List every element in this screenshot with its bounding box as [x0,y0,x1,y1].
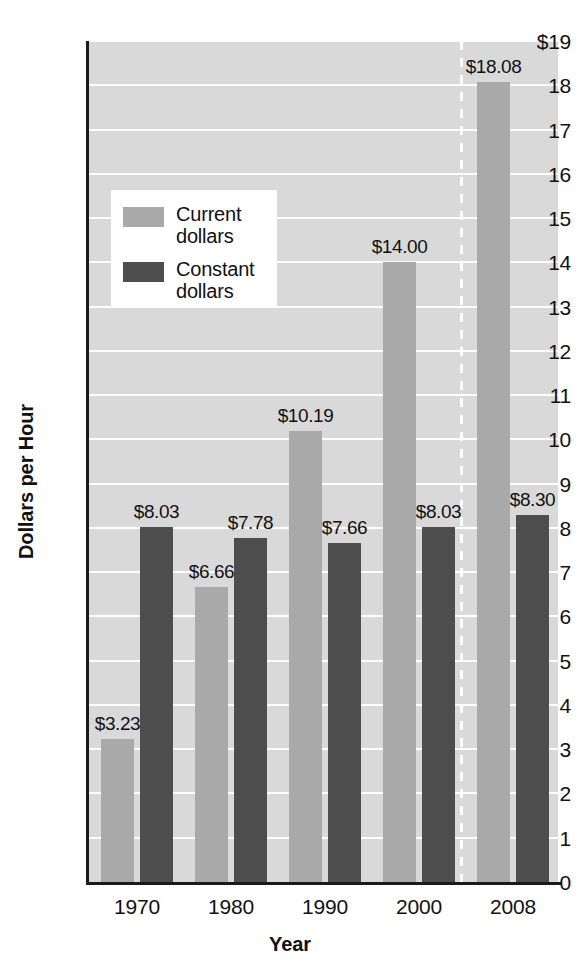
y-tick-13: 13 [494,296,580,317]
y-tick-8: 8 [494,517,580,538]
value-label-2008-current: $18.08 [466,57,522,76]
bar-1970-current [101,739,134,882]
period-divider-line [460,41,463,882]
legend-label-current-line2: dollars [176,225,234,247]
y-tick-18: 18 [494,75,580,96]
legend-item-current: Current dollars [123,203,277,248]
y-tick-10: 10 [494,429,580,450]
y-tick-3: 3 [494,739,580,760]
bar-1980-constant [234,538,267,882]
y-tick-7: 7 [494,562,580,583]
y-tick-16: 16 [494,163,580,184]
x-tick-1980: 1980 [208,896,254,917]
legend-label-constant-line2: dollars [176,280,234,302]
bar-chart: 0123456789101112131415161718$19 19701980… [0,0,580,962]
legend-label-current-line1: Current [176,203,241,225]
value-label-1990-constant: $7.66 [322,518,368,537]
bar-1990-constant [328,543,361,882]
value-label-1990-current: $10.19 [278,406,334,425]
y-tick-0: 0 [494,872,580,893]
value-label-1970-constant: $8.03 [134,502,180,521]
plot-area [89,41,558,882]
legend-swatch-current-icon [123,207,164,227]
y-tick-11: 11 [494,385,580,406]
value-label-2000-constant: $8.03 [416,502,462,521]
bar-1970-constant [140,527,173,882]
x-axis-line [86,882,561,885]
x-tick-2000: 2000 [396,896,442,917]
legend-label-constant-line1: Constant [176,258,254,280]
bar-1990-current [289,431,322,882]
y-tick-19: $19 [494,31,580,52]
y-tick-12: 12 [494,340,580,361]
y-tick-14: 14 [494,252,580,273]
x-axis-title: Year [0,933,580,956]
legend-swatch-constant-icon [123,262,164,282]
x-tick-1970: 1970 [114,896,160,917]
y-tick-6: 6 [494,606,580,627]
y-tick-17: 17 [494,119,580,140]
y-tick-15: 15 [494,208,580,229]
y-tick-5: 5 [494,650,580,671]
value-label-2008-constant: $8.30 [510,490,556,509]
y-axis-title: Dollars per Hour [15,332,38,632]
chart-legend: Current dollars Constant dollars [111,190,277,306]
x-tick-1990: 1990 [302,896,348,917]
gridline [89,41,558,42]
y-axis-line [86,41,89,885]
x-tick-2008: 2008 [490,896,536,917]
bar-2000-constant [422,527,455,882]
y-tick-2: 2 [494,783,580,804]
value-label-2000-current: $14.00 [372,237,428,256]
legend-label-constant: Constant dollars [176,258,254,303]
y-tick-1: 1 [494,827,580,848]
y-tick-4: 4 [494,694,580,715]
bar-2000-current [383,262,416,882]
value-label-1980-current: $6.66 [189,562,235,581]
value-label-1970-current: $3.23 [95,714,141,733]
legend-item-constant: Constant dollars [123,258,277,303]
legend-label-current: Current dollars [176,203,241,248]
bar-1980-current [195,587,228,882]
value-label-1980-constant: $7.78 [228,513,274,532]
